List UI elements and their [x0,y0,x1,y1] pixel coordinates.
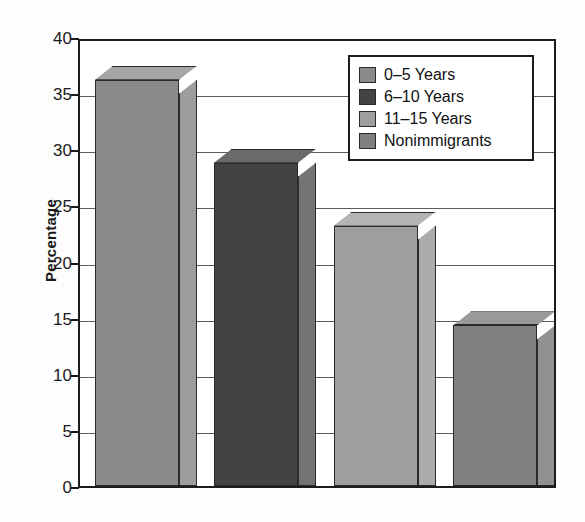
y-tick-label: 30 [38,142,72,159]
bar-side-face [418,226,436,486]
legend-item: 11–15 Years [359,108,524,130]
bar-front-face [95,80,179,486]
bar [95,66,197,486]
legend-item: 6–10 Years [359,86,524,108]
y-tick-mark [71,150,79,152]
bar-top-face [214,149,316,163]
legend-item: 0–5 Years [359,64,524,86]
bar-front-face [334,226,418,486]
legend: 0–5 Years6–10 Years11–15 YearsNonimmigra… [348,55,534,161]
y-tick-mark [71,375,79,377]
y-tick-mark [71,487,79,489]
legend-label: 11–15 Years [384,111,472,127]
bar-side-face [179,80,197,486]
bar-top-face [453,311,555,325]
legend-swatch [359,89,376,105]
legend-swatch [359,133,376,149]
bar [214,149,316,486]
legend-item: Nonimmigrants [359,130,524,152]
y-tick-label: 20 [38,255,72,272]
bar-top-face [334,212,436,226]
y-tick-mark [71,206,79,208]
bar-front-face [453,325,537,486]
legend-swatch [359,111,376,127]
y-tick-label: 40 [38,30,72,47]
bar-top-face [95,66,197,80]
legend-label: Nonimmigrants [384,133,492,149]
bar-side-face [537,325,555,486]
bar-side-face [298,163,316,486]
legend-label: 6–10 Years [384,89,464,105]
legend-swatch [359,67,376,83]
bar [453,311,555,486]
y-tick-mark [71,319,79,321]
y-tick-label: 5 [38,423,72,440]
y-tick-label: 10 [38,367,72,384]
y-tick-label: 15 [38,311,72,328]
bar [334,212,436,486]
y-axis-tick-labels: 4035302520151050 [34,0,72,522]
y-tick-mark [71,263,79,265]
y-tick-label: 0 [38,479,72,496]
y-tick-mark [71,94,79,96]
bar-chart: Percentage 4035302520151050 0–5 Years6–1… [0,0,585,522]
y-tick-label: 35 [38,86,72,103]
legend-label: 0–5 Years [384,67,455,83]
y-tick-label: 25 [38,198,72,215]
y-tick-mark [71,431,79,433]
bar-front-face [214,163,298,486]
y-tick-mark [71,38,79,40]
